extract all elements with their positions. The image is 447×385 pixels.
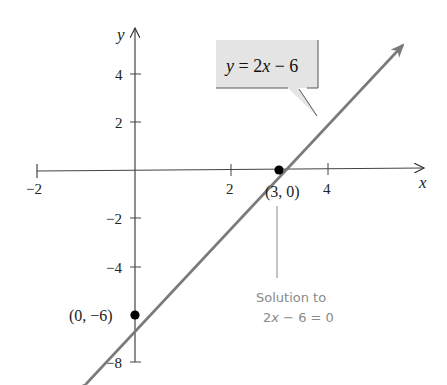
y-tick-4: 4	[115, 67, 123, 83]
solution-annotation: Solution to 2x − 6 = 0	[256, 206, 334, 325]
y-tick-2: 2	[115, 115, 123, 131]
y-tick-neg2: −2	[106, 211, 122, 227]
equation-callout: y = 2x − 6	[216, 40, 318, 117]
line-chart: −2 2 4 x 4 2 −2 −4 −8 y y = 2x − 6 (3,	[0, 0, 447, 385]
point-x-intercept-label: (3, 0)	[265, 183, 300, 201]
x-axis-label: x	[418, 173, 427, 192]
series-line	[86, 45, 403, 384]
callout-const: − 6	[270, 56, 298, 76]
callout-y: y	[224, 56, 234, 76]
callout-equation: y = 2x − 6	[224, 56, 298, 76]
x-axis: −2 2 4 x	[26, 163, 427, 197]
point-y-intercept: (0, −6)	[69, 307, 140, 325]
y-tick-neg8: −8	[106, 355, 122, 371]
x-tick-neg2: −2	[26, 181, 42, 197]
y-tick-neg4: −4	[106, 260, 122, 276]
annotation-line-2: 2x − 6 = 0	[263, 310, 334, 325]
point-y-intercept-label: (0, −6)	[69, 307, 113, 325]
y-axis-label: y	[115, 25, 125, 44]
x-tick-4: 4	[323, 181, 331, 197]
annotation-line-1: Solution to	[256, 290, 326, 305]
point-x-intercept: (3, 0)	[265, 165, 300, 201]
callout-x: x	[261, 56, 270, 76]
callout-eq: = 2	[234, 56, 262, 76]
x-tick-2: 2	[226, 181, 234, 197]
